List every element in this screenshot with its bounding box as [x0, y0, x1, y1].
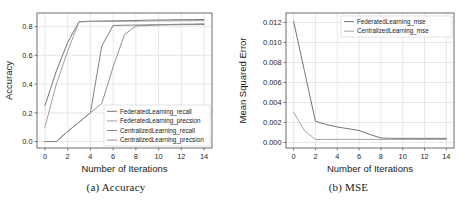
y-tick-label: 0.4: [22, 80, 32, 89]
x-axis-label: Number of Iterations: [326, 163, 412, 174]
accuracy-plot-wrap: 024681012140.00.20.40.60.8Number of Iter…: [0, 0, 232, 180]
y-tick-label: 0.0: [22, 137, 32, 146]
x-tick-label: 4: [335, 152, 339, 161]
y-tick-label: 0.012: [263, 18, 282, 27]
x-tick-label: 10: [154, 152, 162, 161]
series-group: [293, 22, 446, 140]
x-tick-label: 2: [313, 152, 317, 161]
legend-label-1: FederatedLearning_precsion: [120, 117, 201, 125]
subfigure-mse: 024681012140.0000.0020.0040.0060.0080.01…: [232, 0, 465, 217]
y-tick-label: 0.004: [263, 98, 282, 107]
x-tick-label: 14: [200, 152, 208, 161]
y-tick-label: 0.2: [22, 109, 32, 118]
series-line-0: [293, 22, 446, 139]
x-tick-label: 4: [88, 152, 92, 161]
x-tick-label: 6: [111, 152, 115, 161]
x-tick-label: 8: [378, 152, 382, 161]
x-tick-label: 8: [134, 152, 138, 161]
mse-chart: 024681012140.0000.0020.0040.0060.0080.01…: [233, 0, 465, 180]
mse-plot-wrap: 024681012140.0000.0020.0040.0060.0080.01…: [233, 0, 465, 180]
x-tick-label: 12: [177, 152, 185, 161]
legend-label-2: CentralizedLearning_recall: [120, 127, 195, 135]
x-tick-label: 12: [420, 152, 428, 161]
subfigure-accuracy: 024681012140.00.20.40.60.8Number of Iter…: [0, 0, 232, 217]
y-axis-label: Accuracy: [3, 61, 14, 100]
x-axis-label: Number of Iterations: [81, 163, 167, 174]
legend[interactable]: FederatedLearning_mseCentralizedLearning…: [341, 16, 452, 37]
x-tick-label: 10: [398, 152, 406, 161]
x-tick-label: 6: [357, 152, 361, 161]
legend-label-0: FederatedLearning_mse: [357, 18, 426, 26]
legend-label-0: FederatedLearning_recall: [120, 108, 192, 116]
y-tick-label: 0.008: [263, 58, 282, 67]
y-tick-label: 0.6: [22, 51, 32, 60]
x-tick-label: 0: [43, 152, 47, 161]
subfigure-caption-b: (b) MSE: [329, 181, 369, 193]
series-line-0: [45, 19, 204, 105]
y-tick-label: 0.000: [263, 138, 282, 147]
y-tick-label: 0.8: [22, 22, 32, 31]
figure-row: 024681012140.00.20.40.60.8Number of Iter…: [0, 0, 465, 217]
series-line-1: [293, 113, 446, 140]
x-tick-label: 2: [66, 152, 70, 161]
x-tick-label: 14: [442, 152, 450, 161]
subfigure-caption-a: (a) Accuracy: [87, 181, 146, 193]
y-axis-label: Mean Squared Error: [237, 37, 248, 123]
x-tick-label: 0: [291, 152, 295, 161]
legend-label-3: CentralizedLearning_precsion: [120, 136, 204, 144]
legend-label-1: CentralizedLearning_mse: [357, 27, 429, 35]
y-tick-label: 0.010: [263, 38, 282, 47]
y-tick-label: 0.006: [263, 78, 282, 87]
accuracy-chart: 024681012140.00.20.40.60.8Number of Iter…: [0, 0, 232, 180]
legend[interactable]: FederatedLearning_recallFederatedLearnin…: [104, 105, 210, 146]
y-tick-label: 0.002: [263, 118, 282, 127]
